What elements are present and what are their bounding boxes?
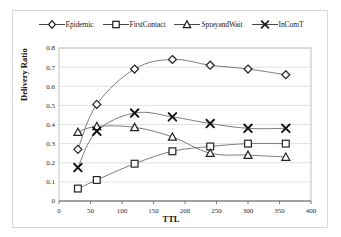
plot-svg: 00.10.20.30.40.50.60.70.8 05010015020025… <box>13 11 329 229</box>
svg-text:0.8: 0.8 <box>46 44 55 52</box>
svg-text:0.7: 0.7 <box>46 64 55 72</box>
diamond-data-point <box>131 65 139 73</box>
series-incomt <box>74 109 290 171</box>
y-tick-labels: 00.10.20.30.40.50.60.70.8 <box>46 44 55 205</box>
diamond-data-point <box>282 71 290 79</box>
chart-figure: Epidemic FirstContact SprayandWait InCom… <box>12 10 328 228</box>
svg-text:0.2: 0.2 <box>46 159 55 167</box>
square-data-point <box>75 185 82 192</box>
svg-text:0.5: 0.5 <box>46 102 55 110</box>
svg-text:0.3: 0.3 <box>46 140 55 148</box>
square-data-point <box>282 140 289 147</box>
series-firstcontact <box>75 140 290 192</box>
svg-text:0: 0 <box>52 197 56 205</box>
plot-area: 00.10.20.30.40.50.60.70.8 05010015020025… <box>13 11 329 229</box>
y-axis-title: Delivery Ratio <box>19 87 29 101</box>
data-series-layer <box>74 55 290 191</box>
x-data-point <box>74 164 82 172</box>
triangle-data-point <box>74 128 82 135</box>
diamond-data-point <box>206 61 214 69</box>
svg-text:0.6: 0.6 <box>46 83 55 91</box>
triangle-data-point <box>168 133 176 140</box>
series-sprayandwait <box>74 122 290 160</box>
x-axis-title: TTL <box>13 214 329 224</box>
diamond-data-point <box>74 145 82 153</box>
square-data-point <box>245 140 252 147</box>
svg-text:0.4: 0.4 <box>46 121 55 129</box>
square-data-point <box>169 148 176 155</box>
square-data-point <box>131 160 138 167</box>
series-epidemic <box>74 55 290 153</box>
diamond-data-point <box>93 100 101 108</box>
diamond-data-point <box>168 55 176 63</box>
x-tick-labels: 050100150200250300350400 <box>57 201 317 215</box>
diamond-data-point <box>244 65 252 73</box>
svg-text:0.1: 0.1 <box>46 178 55 186</box>
square-data-point <box>93 177 100 184</box>
